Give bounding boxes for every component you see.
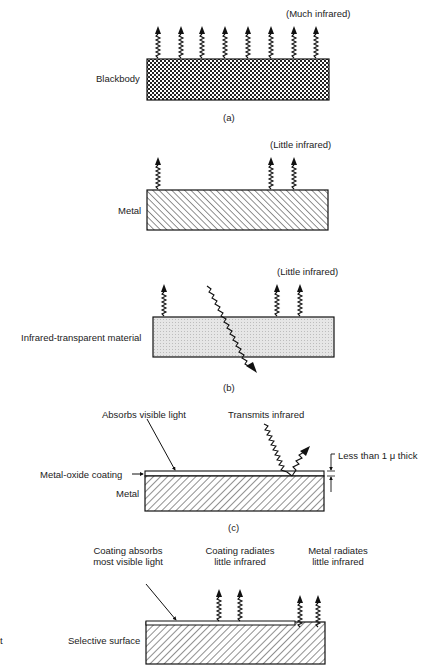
panel-d-selective-surface [146, 584, 325, 664]
infrared-emission-arrows [155, 26, 319, 58]
coating-emission-arrows [216, 589, 243, 621]
coating-absorbs-pointer [146, 584, 176, 620]
thickness-dimension [327, 454, 335, 492]
selective-surface-label: Selective surface [68, 635, 140, 646]
much-infrared-label: (Much infrared) [286, 8, 350, 19]
incident-infrared-ray [264, 424, 292, 476]
panel-b-metal [147, 157, 328, 230]
transparent-little-infrared-label: (Little infrared) [277, 266, 338, 277]
edge-text-fragment: t [0, 635, 3, 646]
transparent-block [153, 317, 334, 357]
blackbody-block [147, 59, 329, 100]
selective-surface-figure: (Much infrared) Blackbody (a) (Little in… [0, 0, 435, 666]
blackbody-label: Blackbody [96, 73, 140, 84]
infrared-emission-arrows [155, 157, 297, 189]
panel-a-blackbody [147, 26, 329, 100]
metal-substrate [145, 476, 324, 511]
absorbs-pointer-arrow [147, 419, 175, 470]
caption-c: (c) [228, 522, 239, 533]
coating-absorbs-line1: Coating absorbs [86, 545, 170, 556]
infrared-transparent-label: Infrared-transparent material [21, 332, 141, 343]
metal-little-infrared-label: (Little infrared) [270, 139, 331, 150]
metal-radiates-line1: Metal radiates [296, 545, 380, 556]
panel-c-coating [132, 419, 335, 511]
coating-radiates-line1: Coating radiates [198, 545, 282, 556]
coating-absorbs-label: Coating absorbs most visible light [86, 545, 170, 567]
selective-coating-strip [146, 621, 295, 625]
panel-b-transparent [153, 284, 334, 373]
caption-b: (b) [223, 382, 235, 393]
infrared-emission-arrows [161, 284, 303, 316]
metal-radiates-label: Metal radiates little infrared [296, 545, 380, 567]
metal-oxide-coating-layer [145, 471, 324, 476]
selective-surface-metal [146, 622, 325, 664]
metal-label: Metal [118, 205, 141, 216]
thickness-label: Less than 1 μ thick [338, 450, 417, 461]
metal-oxide-coating-label: Metal-oxide coating [40, 469, 122, 480]
transmits-infrared-label: Transmits infrared [228, 409, 304, 420]
coating-radiates-label: Coating radiates little infrared [198, 545, 282, 567]
metal-block [147, 190, 328, 230]
coating-absorbs-line2: most visible light [86, 556, 170, 567]
coating-radiates-line2: little infrared [198, 556, 282, 567]
panel-c-metal-label: Metal [116, 488, 139, 499]
absorbs-visible-light-label: Absorbs visible light [102, 409, 186, 420]
metal-radiates-line2: little infrared [296, 556, 380, 567]
caption-a: (a) [223, 112, 235, 123]
